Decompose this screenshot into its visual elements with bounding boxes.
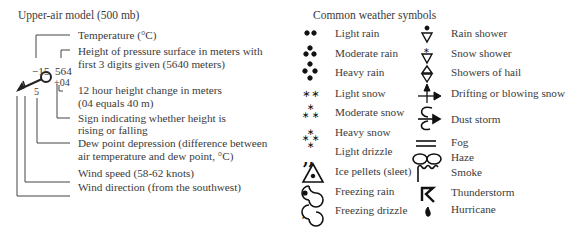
fog-icon: [416, 141, 436, 146]
svg-text:∗: ∗: [312, 110, 320, 120]
symbol-label: Rain shower: [451, 27, 507, 40]
freezing-drizzle-icon: ,: [302, 205, 323, 226]
symbol-label: Moderate snow: [335, 106, 404, 119]
dust-storm-icon: [418, 107, 440, 129]
symbol-label: Moderate rain: [335, 47, 398, 60]
light-rain-icon: [305, 31, 316, 35]
svg-text:∗: ∗: [302, 110, 310, 120]
heavy-snow-icon: ∗∗∗∗: [302, 127, 320, 150]
symbol-label: Showers of hail: [451, 66, 521, 79]
symbol-label: Ice pellets (sleet): [335, 165, 411, 178]
hail-shower-icon: [422, 66, 432, 82]
light-snow-icon: ∗∗: [302, 88, 319, 99]
thunderstorm-icon: [422, 188, 434, 202]
symbol-label: Freezing drizzle: [335, 204, 407, 217]
symbol-label: Hurricane: [451, 203, 496, 216]
moderate-snow-icon: ∗∗∗: [302, 102, 320, 120]
hurricane-icon: [426, 207, 430, 216]
symbol-label: Heavy rain: [335, 66, 384, 79]
moderate-rain-icon: [304, 46, 316, 56]
symbol-label: Fog: [451, 136, 468, 149]
svg-text:∗: ∗: [307, 140, 315, 150]
smoke-icon: [418, 166, 438, 183]
symbol-label: Light snow: [335, 87, 386, 100]
symbol-label: Drifting or blowing snow: [451, 87, 565, 100]
symbol-label: Heavy snow: [335, 126, 391, 139]
symbol-label: Thunderstorm: [451, 186, 514, 199]
heavy-rain-icon: [303, 62, 317, 80]
symbol-label: Freezing rain: [335, 185, 394, 198]
symbol-label: Light rain: [335, 27, 379, 40]
symbol-label: Smoke: [451, 166, 482, 179]
blowing-snow-icon: [418, 84, 441, 103]
svg-text:,: ,: [302, 209, 305, 220]
symbol-label: Haze: [451, 151, 474, 164]
freezing-rain-icon: [302, 186, 323, 207]
haze-icon: [413, 154, 441, 164]
symbol-label: Dust storm: [451, 113, 500, 126]
symbol-label: Light drizzle: [335, 145, 392, 158]
snow-shower-icon: ∗: [422, 46, 432, 63]
svg-text:∗: ∗: [311, 88, 319, 99]
symbol-label: Snow shower: [451, 47, 512, 60]
svg-text:∗: ∗: [302, 88, 310, 99]
rain-shower-icon: [422, 26, 432, 42]
